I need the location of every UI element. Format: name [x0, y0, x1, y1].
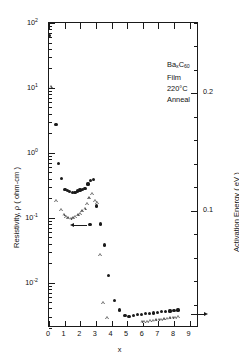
data-point-activation-energy	[59, 208, 63, 211]
y-tick-label: 10-2	[25, 278, 38, 287]
x-tick-label: 1	[57, 330, 71, 337]
y-tick-major	[49, 218, 55, 219]
x-tick-top	[127, 23, 128, 29]
y2-tick-minor	[194, 117, 197, 118]
x-tick-label: 5	[119, 330, 133, 337]
y-tick-minor	[49, 263, 52, 264]
x-tick	[190, 321, 191, 327]
x-tick	[49, 321, 50, 327]
plot-annotation: BaxC60 Film 220°C Anneal	[167, 59, 197, 105]
x-tick-top	[190, 23, 191, 29]
data-point-resistivity	[123, 314, 126, 317]
data-point-resistivity	[132, 314, 135, 317]
y-tick-minor	[49, 49, 52, 50]
y-tick-minor	[49, 286, 52, 287]
y-tick-minor	[49, 224, 52, 225]
data-point-activation-energy	[87, 196, 91, 199]
y-tick-minor	[49, 133, 52, 134]
annotation-anneal: 220°C Anneal	[167, 83, 197, 105]
y-tick-minor	[49, 198, 52, 199]
y2-tick-minor	[194, 46, 197, 47]
y-tick-label: 10-1	[25, 213, 38, 222]
y-tick-minor	[49, 244, 52, 245]
y-tick-minor	[49, 156, 52, 157]
y-tick-minor	[49, 29, 52, 30]
data-point-resistivity	[99, 222, 102, 225]
data-point-activation-energy	[54, 199, 58, 202]
data-point-resistivity	[48, 34, 51, 37]
data-point-activation-energy	[101, 301, 105, 304]
x-tick	[65, 321, 66, 327]
y-axis-right-title: Activation Energy ( eV )	[232, 172, 239, 252]
data-point-resistivity	[136, 313, 139, 316]
data-point-resistivity	[83, 187, 86, 190]
y2-tick-minor	[194, 164, 197, 165]
y-tick-minor	[49, 57, 52, 58]
y-tick-minor	[49, 221, 52, 222]
x-tick	[127, 321, 128, 327]
data-point-resistivity	[54, 123, 57, 126]
data-point-activation-energy	[83, 207, 87, 210]
data-point-activation-energy	[90, 192, 94, 195]
data-point-resistivity	[88, 223, 91, 226]
plot-frame: BaxC60 Film 220°C Anneal	[48, 22, 198, 327]
y-tick-major	[49, 153, 55, 154]
y-tick-label: 100	[27, 148, 38, 157]
y-tick-minor	[49, 94, 52, 95]
data-point-resistivity	[57, 162, 60, 165]
x-tick	[80, 321, 81, 327]
y2-tick-minor	[194, 140, 197, 141]
data-point-resistivity	[176, 308, 179, 311]
data-point-resistivity	[152, 311, 155, 314]
data-point-activation-energy	[98, 253, 102, 256]
data-point-activation-energy	[176, 315, 180, 318]
x-tick	[112, 321, 113, 327]
data-point-resistivity	[118, 308, 121, 311]
x-tick-top	[174, 23, 175, 29]
x-axis-title: x	[0, 345, 239, 354]
y2-tick-label: 0.1	[203, 206, 213, 213]
x-tick-label: 9	[182, 330, 196, 337]
y-tick-minor	[49, 187, 52, 188]
x-tick-top	[143, 23, 144, 29]
y2-tick-minor	[194, 187, 197, 188]
x-tick-label: 6	[135, 330, 149, 337]
y2-tick-major	[191, 211, 197, 212]
y-tick-minor	[49, 114, 52, 115]
y-tick-label: 102	[27, 18, 38, 27]
x-tick-label: 2	[72, 330, 86, 337]
x-tick-top	[65, 23, 66, 29]
y2-tick-minor	[194, 234, 197, 235]
data-point-resistivity	[144, 312, 147, 315]
data-point-resistivity	[172, 309, 175, 312]
data-point-resistivity	[127, 315, 130, 318]
data-point-resistivity	[60, 177, 63, 180]
y-tick-minor	[49, 297, 52, 298]
y-tick-major	[49, 283, 55, 284]
x-tick-top	[96, 23, 97, 29]
y2-tick-minor	[194, 305, 197, 306]
annotation-material: BaxC60 Film	[167, 59, 197, 83]
y2-tick-minor	[194, 23, 197, 24]
x-tick-label: 8	[166, 330, 180, 337]
y-tick-minor	[49, 237, 52, 238]
y-tick-minor	[49, 228, 52, 229]
x-tick-label: 4	[104, 330, 118, 337]
y-tick-minor	[49, 163, 52, 164]
y-tick-label: 101	[27, 83, 38, 92]
data-point-resistivity	[107, 274, 110, 277]
y2-tick-minor	[194, 258, 197, 259]
y-tick-minor	[49, 302, 52, 303]
data-point-resistivity	[86, 182, 89, 185]
y-tick-minor	[49, 98, 52, 99]
y-tick-minor	[49, 91, 52, 92]
data-point-resistivity	[113, 299, 116, 302]
y-tick-minor	[49, 179, 52, 180]
y-tick-minor	[49, 122, 52, 123]
data-point-resistivity	[168, 309, 171, 312]
y-tick-minor	[49, 308, 52, 309]
data-point-resistivity	[95, 204, 98, 207]
y-tick-minor	[49, 232, 52, 233]
y-tick-minor	[49, 37, 52, 38]
axis-pointer-arrow-left	[74, 225, 87, 226]
